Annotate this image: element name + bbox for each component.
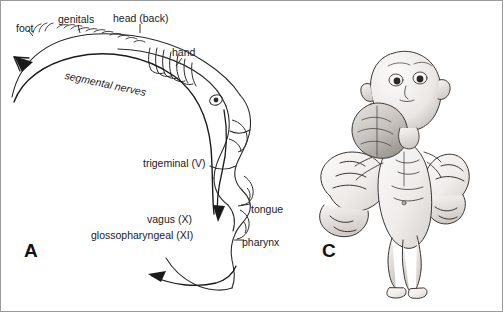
- label-genitals: genitals: [58, 14, 94, 26]
- panel-c-homunculus: [0, 0, 504, 313]
- label-head-back: head (back): [113, 13, 168, 25]
- figure-container: foot genitals head (back) hand segmental…: [0, 0, 504, 313]
- label-vagus: vagus (X): [147, 214, 192, 226]
- label-glossopharyngeal: glossopharyngeal (XI): [91, 230, 193, 242]
- label-pharynx: pharynx: [242, 237, 279, 249]
- label-hand: hand: [172, 47, 195, 59]
- homunculus-figure: [320, 51, 470, 298]
- panel-letter-a: A: [24, 240, 38, 262]
- label-tongue: tongue: [251, 204, 283, 216]
- homunculus-neck: [399, 128, 420, 149]
- label-foot: foot: [16, 23, 34, 35]
- homunculus-left-hand: [320, 152, 387, 237]
- label-trigeminal: trigeminal (V): [143, 158, 205, 170]
- panel-letter-c: C: [322, 240, 336, 262]
